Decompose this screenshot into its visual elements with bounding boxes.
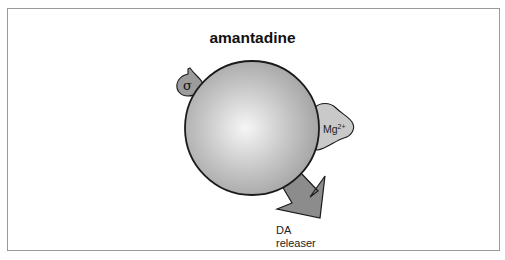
mg-charge: 2+ [338,123,346,130]
da-label-line2: releaser [276,237,316,250]
mg-label: Mg2+ [323,120,346,136]
da-releaser-label: DA releaser [276,224,316,250]
da-label-line1: DA [276,224,316,237]
mechanism-diagram: σ [0,0,505,260]
neuron-sphere [185,61,319,195]
mg-base: Mg [323,123,338,135]
sigma-symbol: σ [183,78,192,93]
